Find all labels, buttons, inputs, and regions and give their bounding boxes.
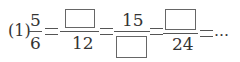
fraction-4-numerator-blank[interactable]	[165, 9, 196, 30]
fraction-1-denominator: 6	[30, 35, 41, 52]
fraction-1-bar	[29, 31, 42, 32]
fraction-2-bar	[60, 31, 99, 32]
fraction-1-numerator: 5	[30, 12, 41, 29]
fraction-3-numerator: 15	[122, 12, 144, 29]
equals-sign-4	[200, 30, 213, 37]
fraction-2-denominator: 12	[72, 35, 94, 52]
equals-sign-1	[45, 28, 58, 35]
equals-sign-2	[100, 28, 113, 35]
ellipsis: …	[214, 24, 229, 39]
problem-label: (1)	[8, 23, 31, 39]
equals-sign-3	[150, 28, 163, 35]
fraction-3-bar	[114, 31, 150, 32]
fraction-2-numerator-blank[interactable]	[65, 9, 95, 28]
fraction-3-denominator-blank[interactable]	[116, 36, 147, 58]
fraction-4-denominator: 24	[172, 36, 194, 53]
